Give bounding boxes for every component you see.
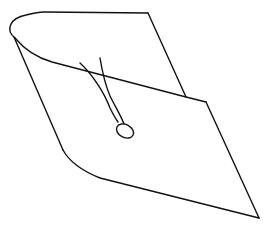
cap-bottom-edge <box>63 150 259 218</box>
graduation-cap-drawing <box>0 0 273 228</box>
tassel-strand-left <box>80 63 118 122</box>
cap-top-back-edge <box>10 12 148 38</box>
cap-left-edge <box>14 37 63 150</box>
cap-side-band <box>14 37 259 218</box>
cap-top-board <box>10 12 206 102</box>
cap-top-front-edge <box>15 38 206 102</box>
cap-right-edge <box>206 102 259 218</box>
tassel <box>80 58 136 141</box>
tassel-strand-right <box>100 58 124 124</box>
graduation-cap-icon <box>0 0 273 228</box>
cap-top-right-edge <box>148 13 186 97</box>
tassel-knot <box>114 121 136 141</box>
